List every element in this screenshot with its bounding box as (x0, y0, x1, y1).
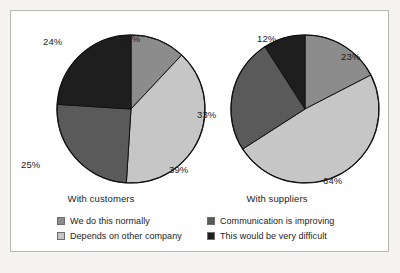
chart-panel: With customers 12% 39% 25% 24% With supp… (10, 10, 389, 252)
pie-left-label-normally: 12% (121, 33, 140, 44)
pie-slice (57, 35, 131, 109)
legend-swatch-icon (57, 232, 65, 240)
pie-right-label-difficult: 12% (257, 33, 276, 44)
legend-item-this-would-be-very-difficult: This would be very difficult (207, 231, 367, 241)
legend-swatch-icon (57, 217, 65, 225)
legend-item-communication-is-improving: Communication is improving (207, 216, 367, 226)
pie-left-label-difficult: 24% (43, 36, 62, 47)
chart-legend: We do this normally Communication is imp… (57, 213, 347, 243)
legend-item-label: Depends on other company (70, 231, 182, 241)
pie-left-svg (55, 33, 207, 185)
chart-area: With customers 12% 39% 25% 24% With supp… (11, 11, 388, 251)
pie-right-label-normally: 23% (341, 51, 360, 62)
pie-right-label-depends: 64% (323, 175, 342, 186)
pie-chart-with-customers (55, 33, 207, 185)
legend-item-depends-on-other-company: Depends on other company (57, 231, 207, 241)
legend-swatch-icon (207, 217, 215, 225)
pie-left-label-improving: 25% (21, 159, 40, 170)
pie-left-caption: With customers (31, 193, 171, 204)
legend-item-label: Communication is improving (220, 216, 334, 226)
pie-right-caption: With suppliers (207, 193, 347, 204)
pie-left-label-depends: 39% (169, 164, 188, 175)
pie-slice (57, 104, 131, 183)
legend-item-label: This would be very difficult (220, 231, 327, 241)
pie-right-label-improving: 33% (197, 109, 216, 120)
legend-item-label: We do this normally (70, 216, 150, 226)
legend-swatch-icon (207, 232, 215, 240)
legend-item-we-do-this-normally: We do this normally (57, 216, 207, 226)
